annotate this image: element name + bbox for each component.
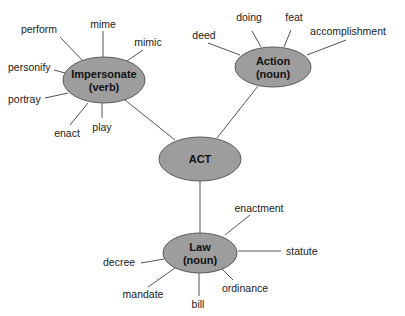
node-label-act: ACT bbox=[189, 153, 212, 165]
leaf-label-enactment: enactment bbox=[234, 202, 283, 214]
leaf-label-mime: mime bbox=[90, 18, 116, 30]
leaf-label-enact: enact bbox=[54, 127, 80, 139]
node-act: ACT bbox=[159, 137, 241, 181]
leaf-connector-personify bbox=[54, 70, 65, 73]
leaf-connector-doing bbox=[252, 31, 261, 47]
leaf-label-ordinance: ordinance bbox=[222, 282, 268, 294]
leaf-connector-ordinance bbox=[221, 268, 233, 280]
leaf-connector-enactment bbox=[225, 215, 250, 235]
node-action: Action(noun) bbox=[235, 47, 311, 87]
leaf-connector-enact bbox=[70, 103, 88, 125]
leaf-label-play: play bbox=[92, 121, 112, 133]
node-label-impersonate: (verb) bbox=[89, 81, 120, 93]
leaf-connector-portray bbox=[45, 93, 68, 98]
node-law: Law(noun) bbox=[163, 233, 237, 273]
leaf-connector-mimic bbox=[127, 50, 143, 61]
leaf-label-mimic: mimic bbox=[134, 36, 161, 48]
leaf-label-statute: statute bbox=[286, 245, 318, 257]
act-word-map-diagram: ACTImpersonate(verb)Action(noun)Law(noun… bbox=[0, 0, 405, 316]
edge-impersonate-act bbox=[125, 100, 175, 140]
node-impersonate: Impersonate(verb) bbox=[63, 57, 145, 103]
leaf-connector-decree bbox=[141, 259, 164, 263]
node-label-law: Law bbox=[189, 241, 211, 253]
leaf-label-decree: decree bbox=[103, 256, 135, 268]
leaf-label-feat: feat bbox=[285, 11, 303, 23]
node-label-law: (noun) bbox=[183, 254, 218, 266]
leaf-label-accomplishment: accomplishment bbox=[310, 25, 386, 37]
leaf-label-bill: bill bbox=[192, 298, 205, 310]
leaf-label-portray: portray bbox=[8, 93, 41, 105]
leaf-connector-mandate bbox=[148, 268, 175, 287]
node-label-action: Action bbox=[256, 55, 291, 67]
leaf-connector-perform bbox=[60, 37, 82, 60]
leaf-label-deed: deed bbox=[192, 29, 216, 41]
edge-action-act bbox=[217, 86, 258, 138]
leaf-label-perform: perform bbox=[21, 23, 57, 35]
leaf-label-mandate: mandate bbox=[123, 288, 164, 300]
leaf-connector-accomplishment bbox=[307, 40, 346, 55]
node-label-impersonate: Impersonate bbox=[71, 68, 136, 80]
leaf-connector-feat bbox=[284, 30, 291, 47]
node-label-action: (noun) bbox=[256, 68, 291, 80]
leaf-connector-deed bbox=[208, 43, 240, 55]
nodes: ACTImpersonate(verb)Action(noun)Law(noun… bbox=[63, 47, 311, 273]
leaf-label-doing: doing bbox=[236, 11, 262, 23]
leaf-label-personify: personify bbox=[8, 61, 51, 73]
